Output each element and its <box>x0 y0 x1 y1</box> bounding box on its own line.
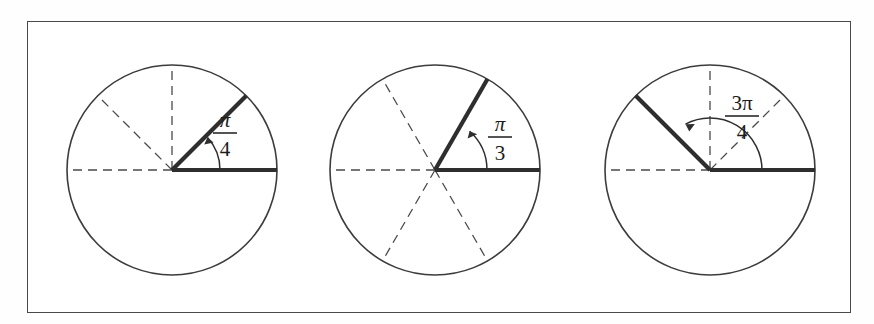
dashed-ray-135-1 <box>98 96 172 170</box>
angle-label-numerator-1: π <box>220 108 231 132</box>
angle-label-denominator-3: 4 <box>737 120 748 144</box>
figure-root: π 4 π 3 <box>0 0 874 324</box>
angle-label-3: 3π 4 <box>725 91 759 144</box>
dashed-ray-300-2 <box>435 170 488 261</box>
dashed-ray-240-2 <box>383 170 436 261</box>
angle-label-denominator-1: 4 <box>220 137 231 161</box>
dashed-ray-120-2 <box>383 79 436 170</box>
angle-label-denominator-2: 3 <box>495 141 506 165</box>
panel-3pi-over-4: 3π 4 <box>605 65 815 275</box>
angle-label-numerator-2: π <box>495 112 506 136</box>
angle-label-numerator-3: 3π <box>731 91 753 115</box>
angle-arc-arrowhead-3 <box>686 124 695 132</box>
radian-circles-diagram: π 4 π 3 <box>0 0 874 324</box>
angle-arc-2 <box>470 131 487 170</box>
panel-pi-over-4: π 4 <box>67 65 277 275</box>
angle-label-2: π 3 <box>488 112 512 165</box>
angle-arc-3 <box>686 118 763 170</box>
panel-pi-over-3: π 3 <box>330 65 540 275</box>
terminal-ray-2 <box>435 79 488 170</box>
terminal-ray-3 <box>636 96 710 170</box>
